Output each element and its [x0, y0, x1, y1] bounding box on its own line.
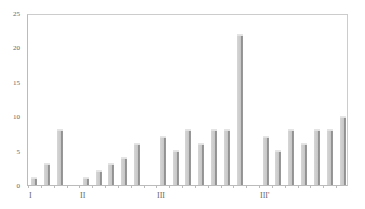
- x-tick: [156, 186, 157, 188]
- x-group-label: III: [157, 192, 165, 200]
- bar: [314, 130, 320, 185]
- x-tick: [131, 186, 132, 188]
- bar: [31, 178, 37, 185]
- x-tick: [208, 186, 209, 188]
- x-tick: [28, 186, 29, 188]
- bar: [275, 151, 281, 185]
- bar: [134, 144, 140, 185]
- y-tick-label: 0: [0, 183, 20, 190]
- x-tick: [195, 186, 196, 188]
- x-group-label: II: [80, 192, 85, 200]
- bar-chart: 0510152025IIIIIIIII': [0, 0, 365, 209]
- x-group-label: III': [260, 192, 269, 200]
- bar: [108, 164, 114, 185]
- x-tick: [246, 186, 247, 188]
- bar: [173, 151, 179, 185]
- y-tick-label: 20: [0, 45, 20, 52]
- y-tick-label: 5: [0, 149, 20, 156]
- x-tick: [92, 186, 93, 188]
- x-tick: [144, 186, 145, 188]
- x-tick: [79, 186, 80, 188]
- bar: [224, 130, 230, 185]
- x-tick: [336, 186, 337, 188]
- bar: [237, 35, 243, 185]
- x-tick: [285, 186, 286, 188]
- x-tick: [118, 186, 119, 188]
- x-tick: [221, 186, 222, 188]
- y-tick-label: 10: [0, 114, 20, 121]
- bar: [288, 130, 294, 185]
- x-tick: [182, 186, 183, 188]
- bar: [44, 164, 50, 185]
- x-tick: [323, 186, 324, 188]
- y-tick-label: 15: [0, 80, 20, 87]
- bar: [327, 130, 333, 185]
- y-tick-label: 25: [0, 11, 20, 18]
- x-tick: [67, 186, 68, 188]
- x-tick: [298, 186, 299, 188]
- x-tick: [41, 186, 42, 188]
- bar: [340, 117, 346, 185]
- x-tick: [54, 186, 55, 188]
- x-tick: [169, 186, 170, 188]
- bar: [185, 130, 191, 185]
- x-group-label: I: [29, 192, 32, 200]
- bar: [301, 144, 307, 185]
- plot-area: [27, 14, 348, 186]
- x-tick: [259, 186, 260, 188]
- bar: [160, 137, 166, 185]
- bar: [211, 130, 217, 185]
- x-tick: [105, 186, 106, 188]
- x-tick: [310, 186, 311, 188]
- x-tick: [272, 186, 273, 188]
- x-tick: [233, 186, 234, 188]
- bar: [121, 158, 127, 185]
- bar: [96, 171, 102, 185]
- bar: [263, 137, 269, 185]
- bar: [57, 130, 63, 185]
- bar: [198, 144, 204, 185]
- bar: [83, 178, 89, 185]
